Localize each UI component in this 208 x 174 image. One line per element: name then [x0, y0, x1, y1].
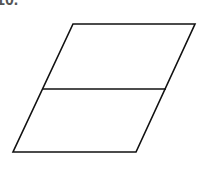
parallelogram-outline: [13, 24, 195, 152]
parallelogram-diagram: [0, 0, 208, 174]
